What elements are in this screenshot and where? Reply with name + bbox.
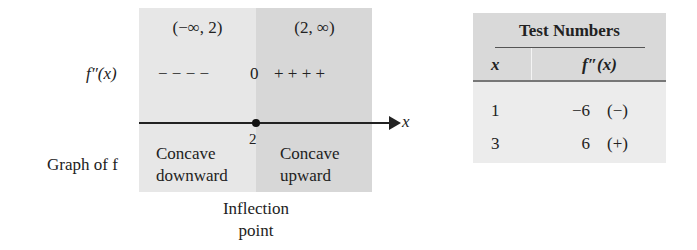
table-cell-value: 6 [564,134,590,154]
concavity-left: Concave downward [156,143,228,187]
derivative-row-label: f″(x) [86,64,117,84]
header-divider [473,80,666,82]
table-cell-x: 3 [491,134,500,154]
graph-row-label: Graph of f [47,155,118,175]
table-title: Test Numbers [473,21,666,41]
title-divider [495,47,645,48]
sign-positive: + + + + [274,64,325,84]
column-divider [531,48,532,81]
concavity-right-line2: upward [280,165,339,187]
critical-point-label: 2 [249,131,257,148]
concavity-right: Concave upward [280,143,339,187]
table-cell-value: −6 [564,101,590,121]
column-header-x: x [491,55,500,75]
concavity-right-line1: Concave [280,143,339,165]
inflection-annotation: Inflection point [206,198,306,242]
table-cell-x: 1 [491,101,500,121]
table-cell-sign: (−) [607,101,628,121]
column-header-fpp: f″(x) [582,55,617,75]
x-axis [139,122,391,124]
concavity-left-line2: downward [156,165,228,187]
arrow-right-icon [389,116,401,130]
interval-label-left: (−∞, 2) [139,18,256,38]
inflection-point-dot [252,119,260,127]
concavity-left-line1: Concave [156,143,228,165]
interval-label-right: (2, ∞) [256,18,373,38]
axis-label: x [402,112,410,132]
inflection-annotation-line1: Inflection [206,198,306,220]
inflection-annotation-line2: point [206,220,306,242]
sign-negative: − − − − [158,64,209,84]
test-numbers-table: Test Numbers x f″(x) 1 −6 (−) 3 6 (+) [473,13,666,163]
table-cell-sign: (+) [607,134,628,154]
sign-zero: 0 [250,64,259,84]
